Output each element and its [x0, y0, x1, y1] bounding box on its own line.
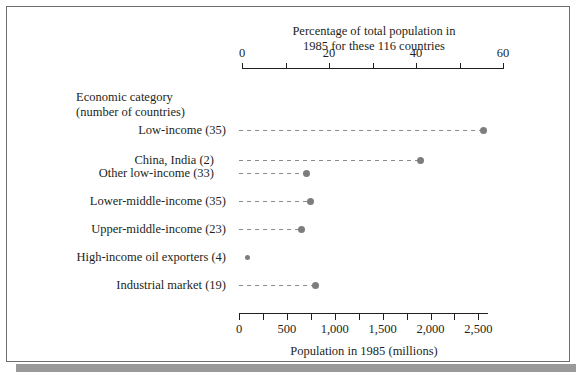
top-axis-caption-line1: Percentage of total population in [245, 24, 503, 39]
category-labels-column: Low-income (35)China, India (2)Other low… [0, 0, 226, 380]
category-label: Lower-middle-income (35) [0, 194, 226, 208]
category-label: Low-income (35) [0, 123, 226, 137]
bottom-axis-line [239, 313, 488, 314]
leader-dashed-line [239, 229, 299, 230]
data-point-dot [245, 255, 250, 260]
top-axis-tick [460, 63, 461, 69]
bottom-axis-tick [407, 314, 408, 320]
top-axis-tick [373, 63, 374, 69]
bottom-axis-tick [239, 314, 240, 320]
bottom-axis-tick [311, 314, 312, 320]
bottom-axis-tick-label: 2,500 [448, 322, 508, 337]
data-point-dot [303, 170, 310, 177]
bottom-axis-tick [335, 314, 336, 320]
top-axis-tick [416, 63, 417, 69]
top-axis-tick [503, 63, 504, 69]
leader-dashed-line [239, 201, 309, 202]
top-axis-tick-label: 60 [478, 46, 528, 61]
category-label: Industrial market (19) [0, 278, 226, 292]
leader-dashed-line [239, 285, 314, 286]
figure-container: Percentage of total population in 1985 f… [0, 0, 583, 380]
data-point-dot [307, 198, 314, 205]
top-axis-tick-label: 40 [391, 46, 441, 61]
bottom-axis-tick [287, 314, 288, 320]
top-axis-tick-label: 20 [304, 46, 354, 61]
top-axis-tick [242, 63, 243, 69]
top-axis-tick [286, 63, 287, 69]
data-point-dot [480, 127, 487, 134]
data-point-dot [312, 282, 319, 289]
bottom-axis-tick [263, 314, 264, 320]
bottom-axis-tick [431, 314, 432, 320]
bottom-axis-tick [383, 314, 384, 320]
top-axis-tick [329, 63, 330, 69]
bottom-axis-caption: Population in 1985 (millions) [239, 344, 489, 359]
plot-area: Percentage of total population in 1985 f… [0, 0, 583, 380]
category-label: Upper-middle-income (23) [0, 222, 226, 236]
bottom-axis-tick [478, 314, 479, 320]
category-label: Other low-income (33) [0, 166, 214, 180]
leader-dashed-line [239, 173, 304, 174]
data-point-dot [298, 226, 305, 233]
bottom-axis-tick [359, 314, 360, 320]
data-point-dot [417, 157, 424, 164]
bottom-axis-tick [454, 314, 455, 320]
category-label: High-income oil exporters (4) [0, 250, 226, 264]
leader-dashed-line [239, 130, 481, 131]
category-label: China, India (2) [0, 153, 214, 167]
top-axis-caption: Percentage of total population in 1985 f… [245, 24, 503, 54]
leader-dashed-line [239, 160, 419, 161]
top-axis-caption-line2: 1985 for these 116 countries [245, 39, 503, 54]
